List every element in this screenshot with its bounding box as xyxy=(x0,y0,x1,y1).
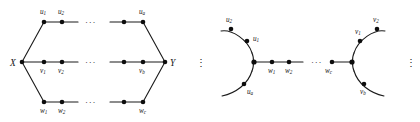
node-right-wc xyxy=(330,60,335,65)
node-right-ua xyxy=(242,82,247,87)
node-right-v1 xyxy=(358,39,363,44)
upper-path-ellipsis: ··· xyxy=(85,17,96,27)
node-vb xyxy=(141,60,146,65)
label-vb: vb xyxy=(139,67,145,75)
node-right-v2 xyxy=(375,27,380,32)
edge-upper-to-Y xyxy=(143,22,165,62)
node-u-prev xyxy=(122,20,127,25)
label-u2: u2 xyxy=(58,8,65,16)
node-right-u2 xyxy=(229,27,234,32)
label-v2: v2 xyxy=(58,67,64,75)
label-ua: ua xyxy=(139,8,146,16)
node-w-prev xyxy=(122,100,127,105)
label-right-ua: ua xyxy=(247,88,254,96)
node-w2 xyxy=(60,100,65,105)
figure-canvas: ··· ··· ··· u1 u2 ua v1 v2 vb xyxy=(0,0,420,122)
right-graph-ellipsis: ··· xyxy=(311,57,322,67)
node-v2 xyxy=(60,60,65,65)
right-cluster-arc-lower xyxy=(354,71,384,96)
right-graph: u2 u1 ua w1 w2 ··· xyxy=(221,16,385,96)
label-w1: w1 xyxy=(40,107,47,115)
node-X xyxy=(20,60,25,65)
label-right-u1: u1 xyxy=(253,35,259,43)
label-right-v1: v1 xyxy=(355,28,361,36)
node-right-hub xyxy=(349,59,354,64)
label-right-v2: v2 xyxy=(373,16,379,24)
node-left-hub xyxy=(251,59,256,64)
label-right-u2: u2 xyxy=(226,16,233,24)
node-u1 xyxy=(42,20,47,25)
lower-path-ellipsis: ··· xyxy=(85,97,96,107)
node-u2 xyxy=(60,20,65,25)
node-right-u1 xyxy=(245,39,250,44)
node-ua xyxy=(141,20,146,25)
label-X: X xyxy=(9,58,17,68)
vertical-ellipsis-middle: ⋮ xyxy=(196,57,206,68)
label-u1: u1 xyxy=(40,8,46,16)
middle-path-ellipsis: ··· xyxy=(85,57,96,67)
edge-lower-to-Y xyxy=(143,62,165,102)
node-right-vb xyxy=(362,82,367,87)
node-right-w1 xyxy=(270,60,275,65)
node-w1 xyxy=(42,100,47,105)
vertical-ellipsis-right: ⋮ xyxy=(406,57,416,68)
node-Y xyxy=(163,60,168,65)
label-right-w2: w2 xyxy=(285,67,293,75)
label-w2: w2 xyxy=(58,107,66,115)
edge-X-to-upper xyxy=(22,22,44,62)
label-right-vb: vb xyxy=(360,88,366,96)
label-Y: Y xyxy=(170,58,177,68)
node-v-prev xyxy=(122,60,127,65)
node-right-w2 xyxy=(287,60,292,65)
node-wc xyxy=(141,100,146,105)
node-v1 xyxy=(42,60,47,65)
label-v1: v1 xyxy=(40,67,46,75)
figure-root: ··· ··· ··· u1 u2 ua v1 v2 vb xyxy=(0,0,420,122)
label-right-w1: w1 xyxy=(268,67,275,75)
label-right-wc: wc xyxy=(325,67,333,75)
left-graph: ··· ··· ··· u1 u2 ua v1 v2 vb xyxy=(9,8,177,115)
label-wc: wc xyxy=(139,107,147,115)
